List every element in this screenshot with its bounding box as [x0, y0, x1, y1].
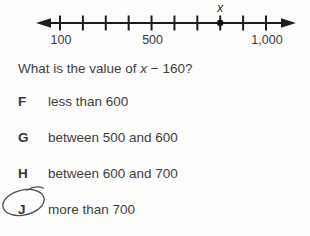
right-arrow-icon [281, 18, 296, 28]
choice-g-letter: G [18, 130, 48, 145]
choice-g-text: between 500 and 600 [48, 130, 178, 145]
tick-label: 500 [142, 33, 163, 47]
question-prefix: What is the value of [18, 61, 140, 76]
number-line-svg: 1005001,000x [0, 0, 310, 52]
point-label: x [216, 1, 224, 15]
choice-f-text: less than 600 [48, 94, 128, 109]
choice-g[interactable]: Gbetween 500 and 600 [18, 130, 178, 145]
choice-j-text: more than 700 [48, 202, 135, 217]
worksheet-page: 1005001,000x What is the value of x − 16… [0, 0, 310, 236]
choice-j-letter: J [18, 202, 48, 217]
question-text: What is the value of x − 160? [18, 61, 192, 76]
question-suffix: − 160? [147, 61, 192, 76]
choice-h-letter: H [18, 166, 48, 181]
left-arrow-icon [36, 18, 51, 28]
choice-f-letter: F [18, 94, 48, 109]
number-line: 1005001,000x [0, 0, 310, 52]
choice-f[interactable]: Fless than 600 [18, 94, 128, 109]
choice-h[interactable]: Hbetween 600 and 700 [18, 166, 178, 181]
tick-label: 1,000 [251, 33, 282, 47]
point-marker [217, 20, 223, 26]
choice-j[interactable]: Jmore than 700 [18, 202, 135, 217]
tick-label: 100 [51, 33, 72, 47]
choice-h-text: between 600 and 700 [48, 166, 178, 181]
